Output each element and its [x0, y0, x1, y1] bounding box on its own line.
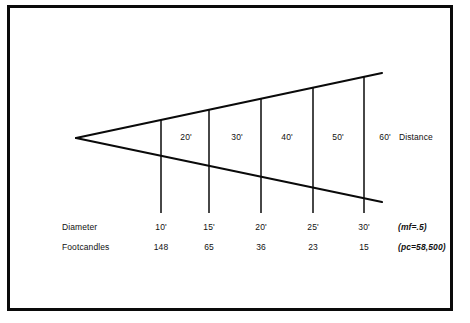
distance-label-4: 50': [332, 132, 343, 142]
annotation-maintenance-factor: (mf=.5): [398, 222, 427, 232]
footcandles-value-2: 65: [204, 242, 214, 252]
page-border-frame: [7, 5, 453, 311]
distance-label-5: 60': [379, 132, 390, 142]
distance-label-1: 20': [180, 132, 191, 142]
distance-label-2: 30': [231, 132, 242, 142]
distance-label-3: 40': [281, 132, 292, 142]
diameter-value-4: 25': [307, 222, 318, 232]
distance-axis-title: Distance: [399, 132, 433, 142]
footcandles-value-3: 36: [256, 242, 266, 252]
footcandles-value-4: 23: [308, 242, 318, 252]
footcandles-value-1: 148: [154, 242, 168, 252]
row-label-diameter: Diameter: [62, 222, 97, 232]
annotation-peak-candlepower: (pc=58,500): [398, 242, 446, 252]
figure-root: 20' 30' 40' 50' 60' Distance Diameter 10…: [0, 0, 470, 323]
footcandles-value-5: 15: [359, 242, 369, 252]
diameter-value-2: 15': [203, 222, 214, 232]
row-label-footcandles: Footcandles: [62, 242, 109, 252]
diameter-value-3: 20': [255, 222, 266, 232]
diameter-value-5: 30': [358, 222, 369, 232]
diameter-value-1: 10': [155, 222, 166, 232]
